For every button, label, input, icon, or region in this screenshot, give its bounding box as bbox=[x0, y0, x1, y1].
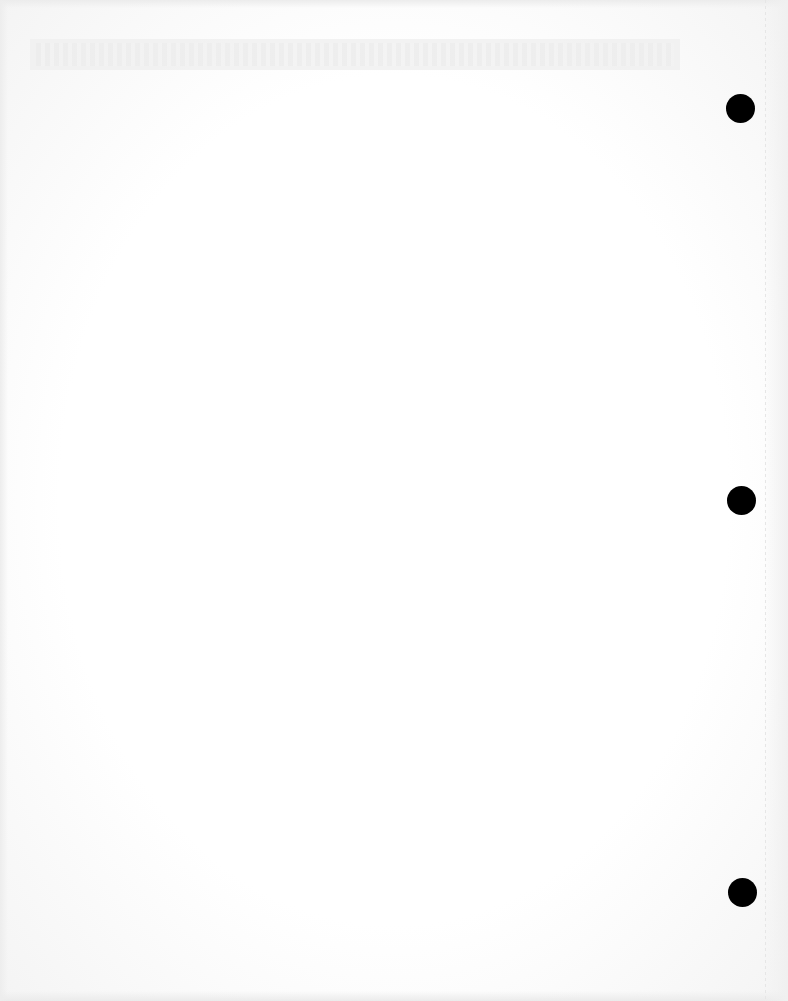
faded-header-band bbox=[30, 39, 680, 70]
punch-hole-bottom bbox=[728, 878, 757, 907]
scan-edge-shadow-bottom bbox=[0, 991, 788, 1001]
scan-edge-shadow-top bbox=[0, 0, 788, 8]
punch-hole-top bbox=[726, 94, 755, 123]
scan-edge-shadow-right bbox=[764, 0, 788, 1001]
scanned-page bbox=[0, 0, 788, 1001]
scan-edge-shadow-left bbox=[0, 0, 8, 1001]
right-margin-line bbox=[765, 0, 766, 1001]
punch-hole-middle bbox=[727, 486, 756, 515]
